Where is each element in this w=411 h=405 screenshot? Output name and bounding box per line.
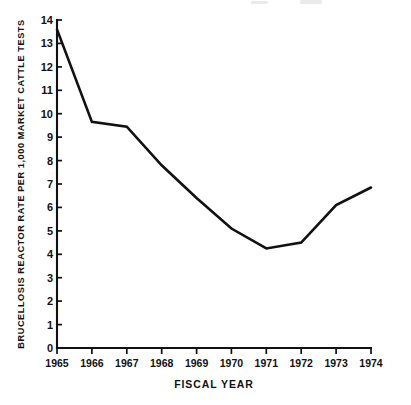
x-tick-label: 1972 <box>290 357 314 369</box>
x-tick-label: 1969 <box>185 357 209 369</box>
y-tick-label: 3 <box>47 272 53 284</box>
x-tick-label: 1967 <box>115 357 139 369</box>
y-tick-label: 2 <box>47 295 53 307</box>
chart-figure: 0 1 2 3 4 5 6 7 8 9 10 11 12 13 14 BRUCE… <box>0 0 411 405</box>
x-tick-label: 1965 <box>45 357 69 369</box>
y-tick-label: 11 <box>41 84 53 96</box>
x-tick-label: 1971 <box>255 357 279 369</box>
x-tick-label: 1966 <box>80 357 104 369</box>
y-tick-label: 1 <box>47 319 53 331</box>
y-tick-label: 10 <box>41 108 53 120</box>
y-tick-label: 7 <box>47 178 53 190</box>
x-axis-title: FISCAL YEAR <box>174 378 254 390</box>
x-tick-label: 1974 <box>359 357 383 369</box>
y-tick-label: 6 <box>47 201 53 213</box>
brucellosis-reactor-rate-line-chart: 0 1 2 3 4 5 6 7 8 9 10 11 12 13 14 BRUCE… <box>0 0 411 405</box>
y-tick-label: 8 <box>47 155 53 167</box>
x-tick-label: 1970 <box>220 357 244 369</box>
y-tick-label: 14 <box>41 14 54 26</box>
y-tick-label: 4 <box>47 248 54 260</box>
y-tick-label: 13 <box>41 37 53 49</box>
y-tick-label: 9 <box>47 131 53 143</box>
y-tick-label: 12 <box>41 61 53 73</box>
x-tick-label: 1973 <box>324 357 348 369</box>
y-axis-title: BRUCELLOSIS REACTOR RATE PER 1,000 MARKE… <box>16 19 26 348</box>
x-tick-label: 1968 <box>150 357 174 369</box>
y-tick-label: 5 <box>47 225 53 237</box>
chart-background <box>0 0 411 405</box>
y-tick-label: 0 <box>47 342 53 354</box>
